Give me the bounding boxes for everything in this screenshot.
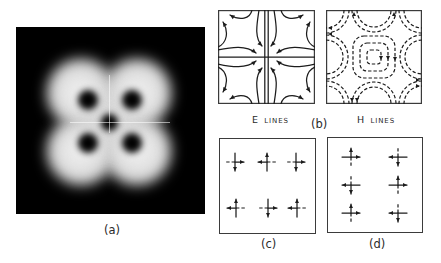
panel-c-label: (c) xyxy=(261,237,276,251)
arrowhead-icon xyxy=(389,211,393,215)
null-spot xyxy=(122,90,142,110)
crosshair-vertical xyxy=(109,75,110,133)
arrowhead-icon xyxy=(356,155,360,159)
arrowhead-icon xyxy=(294,167,298,171)
field-vector-cross xyxy=(258,153,276,171)
field-vector-cross xyxy=(259,199,277,217)
mode-intensity-image xyxy=(16,27,205,214)
arrowhead-icon xyxy=(389,155,393,159)
panel-d-frame xyxy=(327,137,423,233)
field-vector-cross xyxy=(287,153,305,171)
arrowhead-icon xyxy=(349,190,353,194)
null-spot xyxy=(122,133,142,153)
field-vector-cross xyxy=(227,199,245,217)
arrowhead-icon xyxy=(234,199,238,203)
field-vector-cross xyxy=(288,199,306,217)
arrowhead-icon xyxy=(227,206,231,210)
field-vector-grid-c xyxy=(219,138,316,234)
arrowhead-icon xyxy=(266,213,270,217)
arrowhead-icon xyxy=(295,199,299,203)
field-vector-cross xyxy=(389,176,407,194)
arrowhead-icon xyxy=(349,148,353,152)
h-field-lines-diagram xyxy=(326,10,422,104)
arrowhead-icon xyxy=(342,183,346,187)
field-vector-grid-d xyxy=(327,137,423,233)
panel-c-frame xyxy=(219,138,316,234)
arrowhead-icon xyxy=(301,160,305,164)
arrowhead-icon xyxy=(356,211,360,215)
arrowhead-icon xyxy=(288,206,292,210)
arrowhead-icon xyxy=(396,218,400,222)
arrowhead-icon xyxy=(396,176,400,180)
e-lines-caption: E LINES xyxy=(252,108,289,127)
arrowhead-icon xyxy=(240,160,244,164)
null-spot xyxy=(78,90,98,110)
arrowhead-icon xyxy=(273,206,277,210)
field-vector-cross xyxy=(389,148,407,166)
crosshair-horizontal xyxy=(70,122,170,123)
field-vector-cross xyxy=(342,176,360,194)
panel-d-label: (d) xyxy=(369,237,385,251)
panel-a-label: (a) xyxy=(104,223,120,237)
null-spot xyxy=(78,133,98,153)
field-vector-cross xyxy=(226,153,244,171)
arrowhead-icon xyxy=(233,167,237,171)
panel-b-label: (b) xyxy=(311,117,327,131)
arrowhead-icon xyxy=(265,153,269,157)
arrowhead-icon xyxy=(403,183,407,187)
arrowhead-icon xyxy=(258,160,262,164)
e-field-lines-diagram xyxy=(218,10,315,104)
field-vector-cross xyxy=(342,204,360,222)
arrowhead-icon xyxy=(349,204,353,208)
field-vector-cross xyxy=(389,204,407,222)
field-vector-cross xyxy=(342,148,360,166)
arrowhead-icon xyxy=(396,162,400,166)
h-lines-caption: H LINES xyxy=(357,108,395,127)
